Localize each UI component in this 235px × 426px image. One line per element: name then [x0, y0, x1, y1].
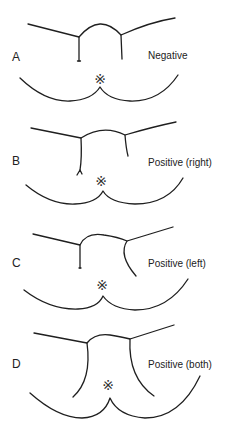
- panel-b-left-limb-fork: [77, 170, 82, 175]
- panel-a-upper-contour: [28, 18, 175, 37]
- panel-d-upper-contour: [34, 325, 174, 343]
- diagram-figure: ※ A Negative ※ B Positive (right) ※ C Po…: [0, 0, 235, 426]
- panel-c-letter: C: [12, 256, 21, 270]
- panel-a-result-label: Negative: [148, 50, 188, 61]
- panel-d-left-limb: [73, 343, 88, 397]
- panel-c-right-limb: [124, 241, 136, 276]
- panel-a-asterisk-icon: ※: [94, 71, 106, 87]
- panel-b-right-limb: [125, 135, 128, 156]
- panel-d-lower-contour: [30, 376, 200, 418]
- panel-b-letter: B: [12, 154, 20, 168]
- panel-d-asterisk-icon: ※: [102, 377, 114, 393]
- panel-b-result-label: Positive (right): [148, 157, 212, 168]
- panel-d: ※ D Positive (both): [12, 325, 212, 418]
- panel-b: ※ B Positive (right): [12, 122, 212, 204]
- panel-b-left-limb: [80, 138, 81, 170]
- panel-d-letter: D: [12, 357, 21, 371]
- panel-a: ※ A Negative: [12, 18, 188, 101]
- panel-b-upper-contour: [31, 122, 176, 138]
- panel-c-result-label: Positive (left): [148, 258, 206, 269]
- panel-a-right-limb: [121, 35, 122, 59]
- panel-a-letter: A: [12, 50, 20, 64]
- panel-d-result-label: Positive (both): [148, 359, 212, 370]
- panel-b-asterisk-icon: ※: [95, 173, 107, 189]
- panel-c: ※ C Positive (left): [12, 227, 206, 310]
- panel-c-asterisk-icon: ※: [96, 277, 108, 293]
- panel-c-upper-contour: [33, 227, 173, 245]
